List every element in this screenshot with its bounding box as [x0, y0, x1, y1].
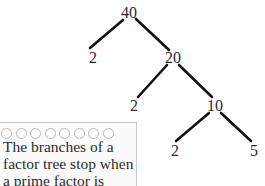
- branch-10-5: [221, 113, 251, 141]
- branch-40-2: [90, 20, 123, 48]
- node-10: 10: [207, 98, 223, 114]
- node-20: 20: [165, 50, 181, 66]
- branch-10-2: [176, 113, 209, 141]
- node-5: 5: [250, 143, 258, 159]
- spiral-binding-rings: [1, 125, 117, 137]
- branch-20-10: [179, 65, 212, 97]
- note-line-2: factor tree stop when: [3, 155, 138, 172]
- note-line-1: The branches of a: [3, 138, 138, 155]
- branch-40-20: [136, 19, 169, 50]
- node-40: 40: [121, 5, 137, 21]
- node-2-level2: 2: [130, 98, 138, 114]
- branch-20-2: [138, 65, 167, 97]
- note-line-3: a prime factor is: [3, 172, 138, 186]
- node-2-level3: 2: [171, 143, 179, 159]
- node-2-level1: 2: [89, 50, 97, 66]
- note-text: The branches of a factor tree stop when …: [3, 138, 138, 186]
- notepad-callout: The branches of a factor tree stop when …: [0, 122, 137, 186]
